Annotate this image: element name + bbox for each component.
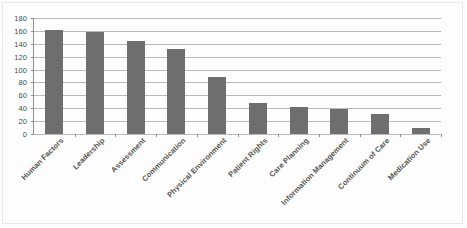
bar[interactable]	[412, 128, 430, 134]
y-tick-label-60: 60	[18, 91, 27, 100]
y-tick-label-40: 40	[18, 104, 27, 113]
x-axis: Human FactorsLeadershipAssessmentCommuni…	[33, 136, 467, 228]
bar[interactable]	[249, 103, 267, 134]
y-tick-label-120: 120	[14, 52, 27, 61]
plot-area	[33, 18, 441, 135]
bar[interactable]	[290, 107, 308, 134]
bar[interactable]	[330, 109, 348, 134]
bar[interactable]	[45, 30, 63, 134]
y-tick-label-180: 180	[14, 14, 27, 23]
y-tick-label-0: 0	[23, 130, 27, 139]
bar[interactable]	[86, 32, 104, 134]
y-tick-label-100: 100	[14, 65, 27, 74]
y-tick-label-140: 140	[14, 39, 27, 48]
bar-chart: 180160140120100806040200 Human FactorsLe…	[0, 0, 467, 228]
y-tick-label-80: 80	[18, 78, 27, 87]
y-tick-mark-0	[31, 134, 34, 135]
bar[interactable]	[208, 77, 226, 134]
bar[interactable]	[167, 49, 185, 134]
y-tick-label-20: 20	[18, 117, 27, 126]
bar[interactable]	[371, 114, 389, 134]
bars-group	[34, 18, 441, 134]
y-axis: 180160140120100806040200	[0, 18, 31, 135]
bar[interactable]	[127, 41, 145, 134]
y-tick-label-160: 160	[14, 26, 27, 35]
